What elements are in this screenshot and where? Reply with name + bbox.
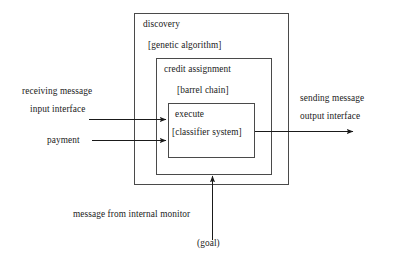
execute-label: execute [175,109,204,120]
diagram-canvas: discovery [genetic algorithm] credit ass… [0,0,394,268]
sending-message-label: sending message [300,93,364,104]
classifier-system-label: [classifier system] [172,127,242,138]
genetic-algorithm-label: [genetic algorithm] [148,40,221,51]
input-interface-label: input interface [30,104,85,115]
goal-label: (goal) [197,238,220,249]
receiving-message-label: receiving message [22,86,92,97]
payment-label: payment [47,135,80,146]
barrel-chain-label: [barrel chain] [177,85,229,96]
internal-monitor-message-label: message from internal monitor [73,209,190,220]
discovery-label: discovery [143,19,180,30]
output-interface-label: output interface [300,111,360,122]
credit-assignment-label: credit assignment [164,64,231,75]
